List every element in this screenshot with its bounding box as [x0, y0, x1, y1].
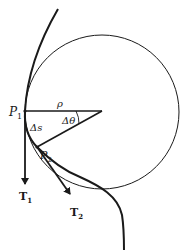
angle-arc — [76, 111, 79, 124]
label-delta-s: Δs — [29, 122, 42, 133]
label-p2: P2 — [39, 149, 52, 164]
point-p2 — [35, 145, 38, 148]
label-t2: T2 — [70, 206, 83, 221]
label-t1: T1 — [19, 190, 32, 205]
point-p1 — [23, 109, 26, 112]
osculating-circle — [25, 35, 179, 189]
label-delta-theta: Δθ — [61, 115, 75, 126]
label-p1: P1 — [8, 105, 22, 121]
curvature-diagram: P1 P2 ρ Δθ Δs T1 T2 — [0, 0, 186, 252]
label-rho: ρ — [56, 98, 63, 109]
